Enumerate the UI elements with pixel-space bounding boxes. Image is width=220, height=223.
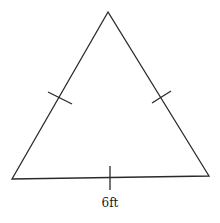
left-side-congruence-tick [48, 92, 72, 104]
right-side-congruence-tick [152, 91, 171, 103]
base-length-label: 6ft [102, 196, 119, 210]
triangle-outline [12, 12, 209, 179]
triangle-diagram: 6ft [0, 0, 220, 223]
